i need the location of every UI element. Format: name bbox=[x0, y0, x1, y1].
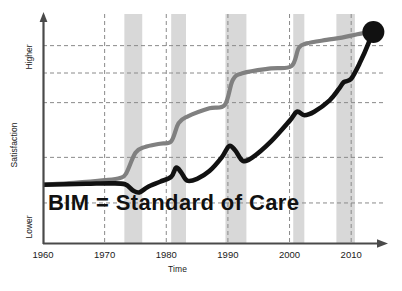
satisfaction-vs-time-chart: Satisfaction Higher Lower Time 196019701… bbox=[0, 0, 402, 291]
y-axis-title: Satisfaction bbox=[9, 110, 19, 180]
recession-band-5 bbox=[336, 14, 354, 244]
y-axis-higher-label: Higher bbox=[24, 40, 34, 74]
x-tick-label-1970: 1970 bbox=[85, 249, 125, 260]
series-line-project-satisfaction bbox=[43, 32, 372, 193]
x-tick-label-1960: 1960 bbox=[23, 249, 63, 260]
annotation-headline: BIM = Standard of Care bbox=[48, 190, 299, 216]
x-tick-label-1980: 1980 bbox=[146, 249, 186, 260]
convergence-marker-group bbox=[362, 21, 384, 43]
x-tick-label-1990: 1990 bbox=[208, 249, 248, 260]
x-tick-label-2010: 2010 bbox=[331, 249, 371, 260]
series-lines-group bbox=[43, 32, 372, 193]
convergence-end-dot bbox=[362, 21, 384, 43]
x-axis-title: Time bbox=[168, 264, 187, 274]
y-axis-lower-label: Lower bbox=[24, 210, 34, 244]
x-tick-label-2000: 2000 bbox=[270, 249, 310, 260]
chart-plot-area bbox=[0, 0, 402, 291]
